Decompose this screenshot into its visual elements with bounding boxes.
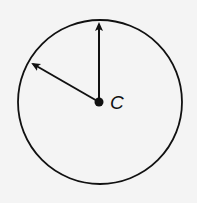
center-label: C (110, 92, 124, 113)
center-point (95, 98, 104, 107)
upper-left-radius-arrow (33, 64, 99, 102)
circle-diagram: C (0, 0, 197, 203)
